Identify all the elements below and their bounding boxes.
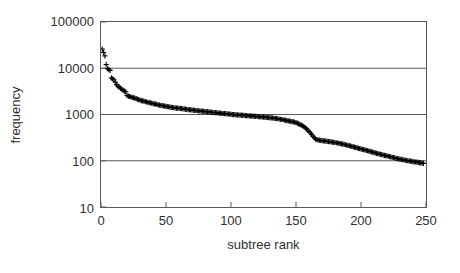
- data-point-markers: [101, 46, 426, 165]
- y-axis-title: frequency: [9, 60, 23, 170]
- y-tick-label-100000: 100000: [0, 15, 94, 28]
- data-point-marker: [101, 46, 105, 51]
- x-tick-label-0: 0: [71, 214, 131, 228]
- x-tick-label-150: 150: [266, 214, 326, 228]
- plot-svg: [101, 22, 426, 207]
- x-axis-title: subtree rank: [100, 238, 427, 252]
- x-tick-label-200: 200: [331, 214, 391, 228]
- x-axis-tick-labels: 0 50 100 150 200 250: [0, 214, 460, 232]
- x-tick-label-250: 250: [396, 214, 456, 228]
- x-tick-label-100: 100: [201, 214, 261, 228]
- plot-area: [100, 21, 427, 208]
- x-tick-label-50: 50: [136, 214, 196, 228]
- chart-container: 100000 10000 1000 100 10 0 50 100 150 20…: [0, 0, 460, 273]
